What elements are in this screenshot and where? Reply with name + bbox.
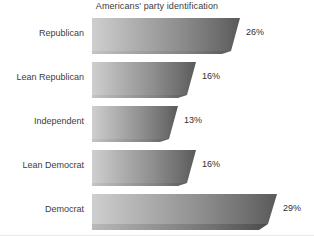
plot-area: Republican 26% Lean Republican 16% Indep… [0, 14, 314, 234]
category-label: Republican [0, 27, 84, 39]
bar-row: Republican 26% [0, 14, 314, 58]
bar-value-label: 29% [283, 202, 301, 214]
bar-base-shadow [92, 183, 196, 186]
bar[interactable] [92, 62, 196, 98]
bar[interactable] [92, 150, 196, 186]
category-label: Independent [0, 115, 84, 127]
bar-row: Lean Republican 16% [0, 58, 314, 102]
bar-face [92, 194, 277, 224]
bar-base-shadow [92, 224, 277, 230]
bar-face [92, 62, 196, 95]
bar-row: Independent 13% [0, 102, 314, 146]
bar-face [92, 150, 196, 183]
bar-value-label: 16% [202, 158, 220, 170]
bar-chart: Americans' party identification Republic… [0, 0, 314, 236]
bar-base-shadow [92, 139, 178, 142]
bar-value-label: 26% [246, 26, 264, 38]
bar[interactable] [92, 194, 277, 230]
category-label: Lean Republican [0, 71, 84, 83]
bar-value-label: 16% [202, 70, 220, 82]
bar-face [92, 106, 178, 139]
category-label: Democrat [0, 203, 84, 215]
bar[interactable] [92, 18, 240, 54]
chart-title: Americans' party identification [0, 1, 314, 12]
bar[interactable] [92, 106, 178, 142]
bar-base-shadow [92, 51, 240, 54]
bar-base-shadow [92, 95, 196, 98]
bar-value-label: 13% [184, 114, 202, 126]
bar-row: Lean Democrat 16% [0, 146, 314, 190]
category-label: Lean Democrat [0, 159, 84, 171]
bar-face [92, 18, 240, 51]
bar-row: Democrat 29% [0, 190, 314, 234]
